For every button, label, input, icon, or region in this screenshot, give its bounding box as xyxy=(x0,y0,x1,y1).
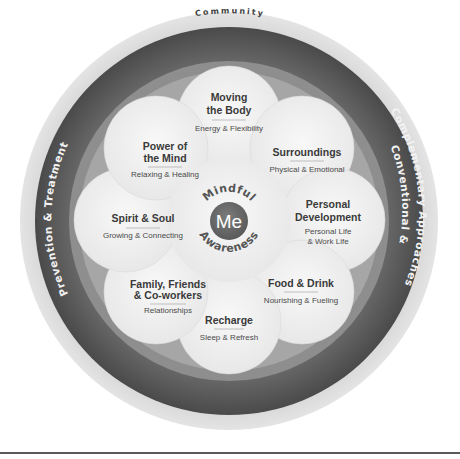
svg-text:Food & Drink: Food & Drink xyxy=(268,277,334,289)
svg-text:Energy & Flexibility: Energy & Flexibility xyxy=(195,124,263,133)
svg-text:Growing & Connecting: Growing & Connecting xyxy=(103,231,183,240)
svg-text:Personal: Personal xyxy=(306,198,350,210)
svg-text:Nourishing & Fueling: Nourishing & Fueling xyxy=(264,296,338,305)
me-label: Me xyxy=(216,211,242,232)
svg-text:Relationships: Relationships xyxy=(144,306,192,315)
svg-text:the Body: the Body xyxy=(207,104,252,116)
svg-text:Power of: Power of xyxy=(143,140,188,152)
svg-text:Relaxing & Healing: Relaxing & Healing xyxy=(131,170,199,179)
svg-text:Physical & Emotional: Physical & Emotional xyxy=(269,165,344,174)
svg-text:Spirit & Soul: Spirit & Soul xyxy=(112,212,175,224)
svg-text:& Co-workers: & Co-workers xyxy=(134,289,202,301)
svg-text:the Mind: the Mind xyxy=(143,152,186,164)
svg-text:Development: Development xyxy=(295,211,361,223)
whole-health-diagram: Community Prevention & Treatment Convent… xyxy=(0,0,460,459)
svg-text:Personal Life: Personal Life xyxy=(305,227,352,236)
bottom-divider xyxy=(0,452,460,454)
svg-text:Surroundings: Surroundings xyxy=(273,146,342,158)
svg-text:Moving: Moving xyxy=(211,91,248,103)
svg-text:Recharge: Recharge xyxy=(205,314,253,326)
svg-text:& Work Life: & Work Life xyxy=(307,237,349,246)
svg-text:Sleep & Refresh: Sleep & Refresh xyxy=(200,333,258,342)
